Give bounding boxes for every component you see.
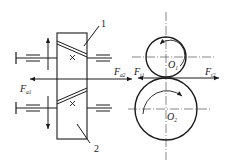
- label1-leader: [84, 26, 99, 46]
- gear1-label: 1: [101, 18, 106, 29]
- ft2-label: Ft2: [204, 66, 216, 78]
- gear2-helix-line: [57, 91, 87, 104]
- fa1-label: Fa1: [19, 83, 32, 95]
- o2-rotation-arrow-icon: [143, 91, 182, 114]
- ft1-label: Ft1: [133, 66, 145, 78]
- front-view: [128, 12, 219, 160]
- gear1-helix-line: [57, 44, 87, 57]
- gear2-center-x-icon: [70, 101, 75, 106]
- side-view: [16, 26, 132, 143]
- gear-body-outline: [57, 33, 87, 139]
- o1-label: O1: [168, 59, 178, 71]
- gear1-center-x-icon: [70, 55, 75, 60]
- label2-leader: [77, 124, 90, 143]
- o2-label: O2: [167, 111, 177, 123]
- fa2-label: Fa2: [113, 66, 126, 78]
- helical-gear-diagram: 1 2 Fa1 Fa2 O1 O2 Ft1 Ft2: [0, 0, 228, 168]
- gear1-helix-line: [57, 41, 87, 54]
- gear2-label: 2: [94, 143, 99, 154]
- gear2-helix-line: [57, 88, 87, 101]
